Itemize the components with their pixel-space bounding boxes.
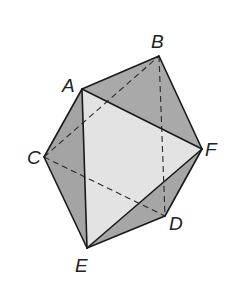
vertex-label-b: B bbox=[151, 31, 164, 52]
vertex-label-f: F bbox=[205, 139, 218, 160]
octahedron-diagram: A B C D E F bbox=[0, 0, 237, 290]
vertex-label-d: D bbox=[169, 213, 183, 234]
vertex-label-e: E bbox=[75, 255, 88, 276]
face-ace bbox=[44, 89, 87, 248]
vertex-label-c: C bbox=[27, 147, 41, 168]
vertex-label-a: A bbox=[61, 75, 75, 96]
